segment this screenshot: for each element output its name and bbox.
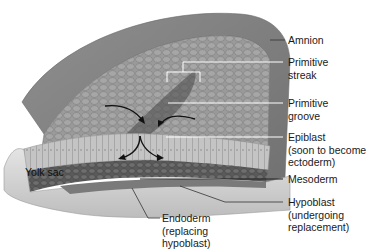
label-yolk-sac: Yolk sac (25, 166, 64, 179)
label-mesoderm: Mesoderm (288, 173, 338, 186)
label-primitive-groove: Primitive groove (288, 97, 328, 122)
label-epiblast: Epiblast (soon to become ectoderm) (288, 131, 366, 169)
label-primitive-streak: Primitive streak (288, 56, 328, 81)
label-endoderm: Endoderm (replacing hypoblast) (162, 212, 210, 250)
label-hypoblast: Hypoblast (undergoing replacement) (288, 196, 349, 234)
label-amnion: Amnion (288, 34, 324, 47)
